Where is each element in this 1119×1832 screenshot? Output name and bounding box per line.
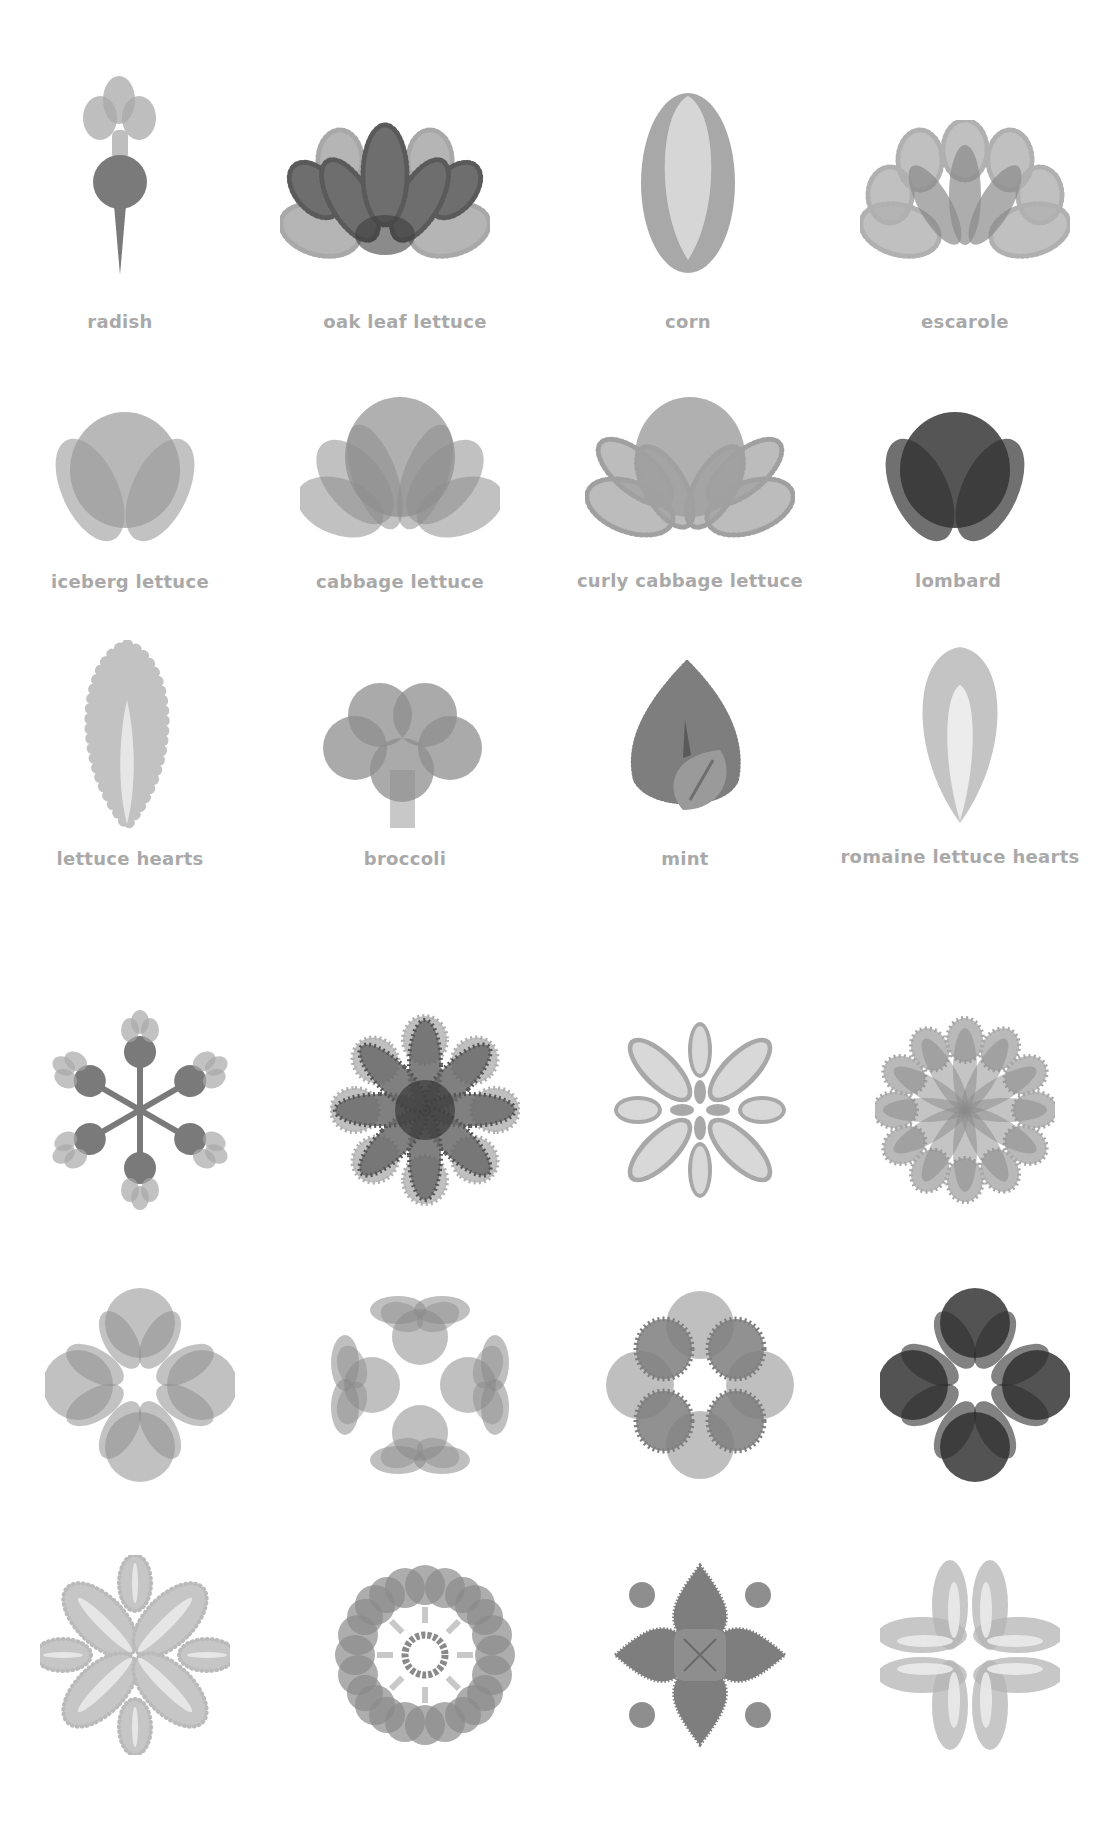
label-lombard: lombard: [818, 570, 1098, 591]
mint-icon: [625, 660, 750, 824]
label-escarole: escarole: [825, 311, 1105, 332]
iceberg-quatrefoil-pattern-icon: [45, 1285, 235, 1489]
curly-cabbage-lettuce-icon: [585, 397, 795, 551]
lettuce-hearts-icon: [72, 640, 182, 834]
label-lettuce-hearts: lettuce hearts: [0, 848, 270, 869]
label-cabbage-lettuce: cabbage lettuce: [260, 571, 540, 592]
label-romaine-lettuce-hearts: romaine lettuce hearts: [820, 846, 1100, 867]
broccoli-icon: [320, 670, 485, 834]
label-mint: mint: [545, 848, 825, 869]
label-broccoli: broccoli: [265, 848, 545, 869]
cabbage-lettuce-icon: [300, 397, 500, 551]
romaine-lettuce-hearts-icon: [915, 645, 1005, 829]
radish-icon: [70, 70, 180, 284]
oak-leaf-rosette-pattern-icon: [330, 1010, 520, 1214]
curly-cabbage-quatrefoil-pattern-icon: [605, 1285, 795, 1489]
broccoli-wreath-pattern-icon: [330, 1560, 520, 1754]
lombard-icon: [880, 410, 1030, 549]
corn-flower-pattern-icon: [610, 1015, 790, 1209]
escarole-rosette-pattern-icon: [875, 1010, 1055, 1214]
cabbage-ring-pattern-icon: [330, 1290, 510, 1484]
label-corn: corn: [548, 311, 828, 332]
label-radish: radish: [0, 311, 260, 332]
mint-diamond-pattern-icon: [610, 1560, 790, 1754]
label-curly-cabbage-lettuce: curly cabbage lettuce: [550, 570, 830, 591]
lombard-quatrefoil-pattern-icon: [880, 1285, 1070, 1489]
escarole-icon: [860, 120, 1070, 274]
label-oak-leaf-lettuce: oak leaf lettuce: [265, 311, 545, 332]
lettuce-hearts-star-pattern-icon: [40, 1555, 230, 1759]
label-iceberg-lettuce: iceberg lettuce: [0, 571, 270, 592]
romaine-clover-pattern-icon: [880, 1560, 1060, 1754]
radish-snowflake-pattern-icon: [45, 1010, 235, 1214]
iceberg-lettuce-icon: [50, 410, 200, 549]
corn-icon: [640, 92, 736, 278]
oak-leaf-lettuce-icon: [280, 120, 490, 274]
